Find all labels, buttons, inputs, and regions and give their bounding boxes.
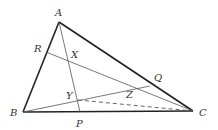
cevian-rc [46, 52, 193, 111]
label-b: B [9, 107, 17, 118]
label-z: Z [125, 89, 134, 100]
label-c: C [199, 107, 207, 118]
side-bc [23, 111, 193, 112]
label-q: Q [154, 72, 162, 83]
dashed-yc [78, 100, 193, 111]
triangle-diagram: A B C P R Q X Y Z [0, 0, 218, 130]
side-ab [23, 22, 59, 112]
label-x: X [70, 49, 79, 60]
label-y: Y [66, 90, 74, 101]
label-p: P [75, 118, 83, 129]
label-r: R [33, 43, 42, 54]
label-a: A [54, 7, 62, 18]
